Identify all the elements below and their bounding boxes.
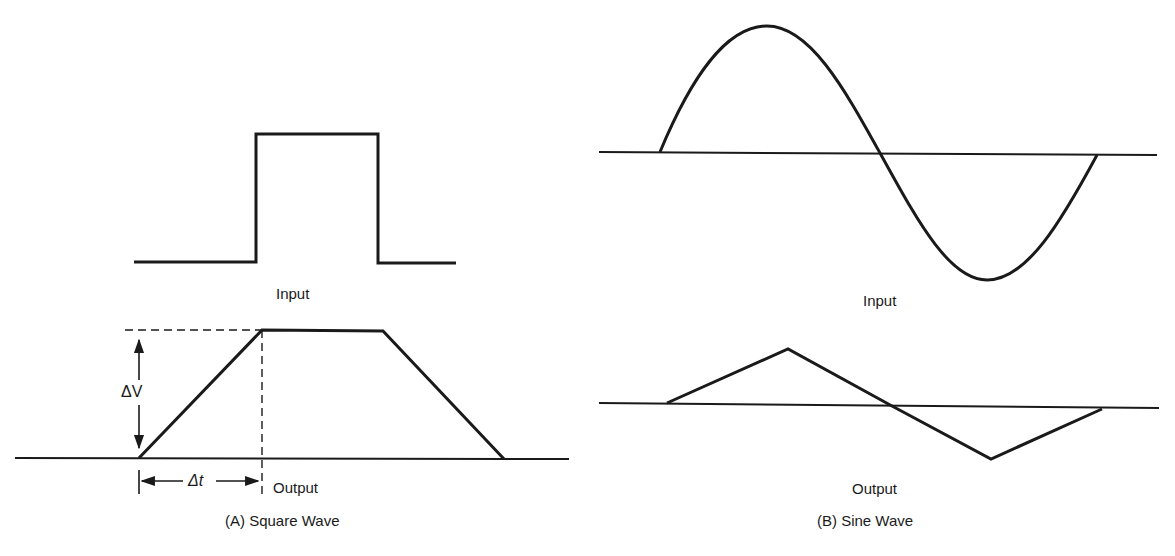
delta-v-label: ΔV — [121, 384, 142, 400]
sine-wave-input — [599, 26, 1157, 280]
input-label-a: Input — [276, 286, 309, 301]
output-axis-b — [599, 403, 1159, 408]
square-wave-input — [134, 134, 456, 263]
caption-a: (A) Square Wave — [225, 513, 340, 528]
output-baseline-a — [15, 458, 569, 459]
delta-t-label: Δt — [188, 473, 203, 489]
output-label-b: Output — [852, 481, 897, 496]
waveform-diagram — [0, 0, 1175, 556]
square-wave-output — [15, 330, 569, 496]
output-label-a: Output — [273, 480, 318, 495]
caption-b: (B) Sine Wave — [817, 513, 913, 528]
sine-wave-output — [599, 349, 1159, 459]
input-label-b: Input — [863, 293, 896, 308]
